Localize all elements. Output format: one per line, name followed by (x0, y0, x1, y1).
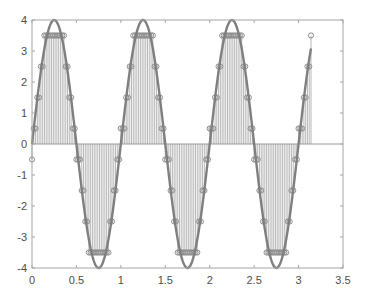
y-tick-label: -3 (17, 231, 27, 243)
y-tick-label: 2 (21, 76, 27, 88)
y-tick-label: -1 (17, 169, 27, 181)
x-tick-label: 1 (118, 274, 124, 286)
chart: 00.511.522.533.5 -4-3-2-101234 (0, 0, 366, 301)
y-tick-label: -2 (17, 200, 27, 212)
y-tick-label: 1 (21, 107, 27, 119)
x-tick-label: 3.5 (335, 274, 350, 286)
y-tick-label: 0 (21, 138, 27, 150)
y-tick-label: 4 (21, 14, 27, 26)
x-tick-label: 1.5 (158, 274, 173, 286)
x-tick-label: 0 (29, 274, 35, 286)
y-tick-label: -4 (17, 262, 27, 274)
y-tick-label: 3 (21, 45, 27, 57)
x-tick-label: 2 (207, 274, 213, 286)
x-tick-label: 2.5 (246, 274, 261, 286)
x-tick-label: 0.5 (69, 274, 84, 286)
x-tick-label: 3 (296, 274, 302, 286)
